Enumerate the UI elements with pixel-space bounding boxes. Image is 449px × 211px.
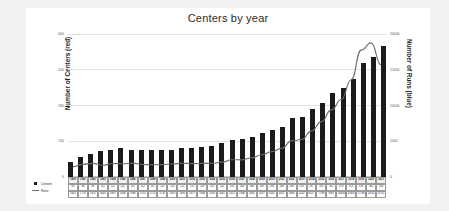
table-cell: 2015 (316, 177, 326, 184)
y-axis-right-tick: 15000 (390, 68, 399, 72)
table-cell: 1918 (207, 191, 217, 198)
table-cell: 9387 (326, 191, 336, 198)
table-cell: 2019 (356, 177, 366, 184)
table-cell: 185 (257, 184, 267, 191)
table-row-runs: 1441177019111643188718561938175517151732… (68, 191, 386, 198)
table-cell: 248 (287, 184, 297, 191)
table-cell: 209 (277, 184, 287, 191)
table-cell: 1770 (78, 191, 88, 198)
table-cell: 166 (247, 184, 257, 191)
table-cell: 115 (167, 184, 177, 191)
table-cell: 196 (267, 184, 277, 191)
table-cell: 2011 (277, 177, 287, 184)
chart-legend: Centers Runs (32, 180, 66, 194)
y-axis-left-tick: 300 (40, 104, 64, 108)
y-axis-right-title: Number of Runs (blue) (406, 29, 413, 119)
table-cell: 2692 (247, 191, 257, 198)
table-cell: 13605 (346, 191, 356, 198)
chart-title: Centers by year (26, 12, 430, 24)
table-cell: 1911 (88, 191, 98, 198)
table-cell: 2421 (227, 191, 237, 198)
table-cell: 115 (128, 184, 138, 191)
y-axis-left-tick: 150 (40, 139, 64, 143)
table-cell: 1900 (197, 191, 207, 198)
table-cell: 18762 (366, 191, 376, 198)
legend-line-icon (32, 190, 39, 191)
table-cell: 2018 (346, 177, 356, 184)
y-axis-left-tick: 0 (40, 175, 64, 179)
table-cell: 6417 (307, 191, 317, 198)
data-table: 1990199119921993199419951996199719981999… (68, 177, 386, 198)
table-cell: 112 (138, 184, 148, 191)
table-cell: 2000 (167, 177, 177, 184)
table-cell: 3542 (267, 191, 277, 198)
table-cell: 112 (108, 184, 118, 191)
table-cell: 2014 (307, 177, 317, 184)
table-cell: 115 (148, 184, 158, 191)
table-cell: 2082 (217, 191, 227, 198)
table-cell: 1856 (118, 191, 128, 198)
table-cell: 1997 (138, 177, 148, 184)
table-cell: 1990 (68, 177, 78, 184)
table-cell: 15711 (376, 191, 386, 198)
legend-item-runs: Runs (32, 187, 66, 194)
table-cell: 2005 (217, 177, 227, 184)
table-cell: 478 (356, 184, 366, 191)
table-cell: 2017 (336, 177, 346, 184)
table-cell: 1998 (148, 177, 158, 184)
table-cell: 2008 (247, 177, 257, 184)
table-cell: 2012 (287, 177, 297, 184)
legend-label: Runs (41, 189, 48, 193)
table-cell: 374 (336, 184, 346, 191)
table-cell: 287 (307, 184, 317, 191)
table-cell: 7748 (316, 191, 326, 198)
table-cell: 1732 (157, 191, 167, 198)
table-cell: 2002 (187, 177, 197, 184)
table-cell: 1999 (157, 177, 167, 184)
legend-item-centers: Centers (32, 180, 66, 187)
table-cell: 2396 (237, 191, 247, 198)
table-cell: 1994 (108, 177, 118, 184)
table-cell: 4017 (277, 191, 287, 198)
table-cell: 1996 (128, 177, 138, 184)
table-cell: 122 (187, 184, 197, 191)
legend-square-icon (32, 182, 39, 185)
table-cell: 1715 (148, 191, 158, 198)
table-cell: 2006 (227, 177, 237, 184)
table-cell: 128 (197, 184, 207, 191)
table-cell: 2010 (267, 177, 277, 184)
line-series-runs (68, 34, 386, 177)
table-cell: 311 (316, 184, 326, 191)
table-cell: 413 (346, 184, 356, 191)
table-cell: 1823 (167, 191, 177, 198)
table-cell: 2004 (207, 177, 217, 184)
table-cell: 253 (297, 184, 307, 191)
table-cell: 2020 (366, 177, 376, 184)
table-row-centers: 6386981111121221151121151151151211221281… (68, 184, 386, 191)
table-cell: 111 (98, 184, 108, 191)
table-cell: 1930 (177, 191, 187, 198)
table-cell: 1993 (98, 177, 108, 184)
y-axis-right-tick: 0 (390, 175, 392, 179)
y-axis-right-tick: 5000 (390, 139, 398, 143)
table-cell: 2001 (177, 177, 187, 184)
table-cell: 115 (157, 184, 167, 191)
y-axis-left-tick: 600 (40, 32, 64, 36)
table-cell: 122 (118, 184, 128, 191)
table-cell: 1887 (108, 191, 118, 198)
table-cell: 2007 (237, 177, 247, 184)
table-cell: 98 (88, 184, 98, 191)
table-row-years: 1990199119921993199419951996199719981999… (68, 177, 386, 184)
table-cell: 160 (237, 184, 247, 191)
table-cell: 1877 (187, 191, 197, 198)
table-cell: 2013 (297, 177, 307, 184)
table-cell: 132 (207, 184, 217, 191)
table-cell: 1991 (78, 177, 88, 184)
legend-label: Centers (41, 182, 52, 186)
table-cell: 502 (366, 184, 376, 191)
plot-area (68, 34, 386, 177)
table-cell: 2016 (326, 177, 336, 184)
table-cell: 155 (227, 184, 237, 191)
table-cell: 351 (326, 184, 336, 191)
table-cell: 86 (78, 184, 88, 191)
